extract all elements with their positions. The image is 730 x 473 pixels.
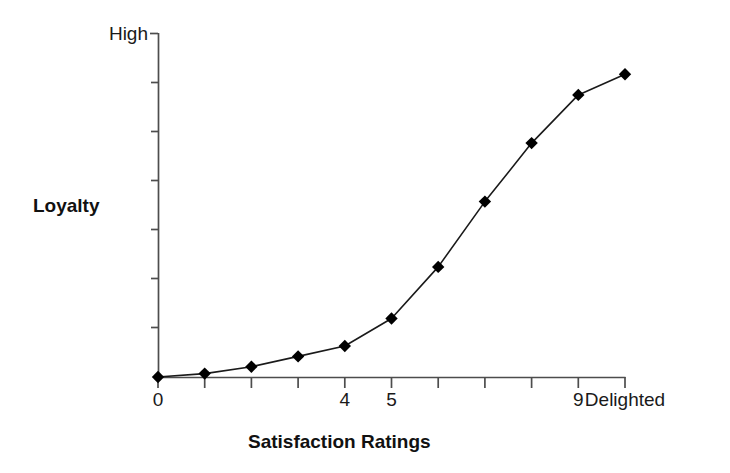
x-tick-label: 0 bbox=[153, 390, 164, 409]
data-point-marker bbox=[339, 340, 351, 352]
x-tick-label: Delighted bbox=[585, 390, 665, 409]
data-point-marker bbox=[245, 361, 257, 373]
y-axis-title: Loyalty bbox=[33, 196, 100, 215]
chart-figure: High Loyalty Satisfaction Ratings 0459De… bbox=[0, 0, 730, 473]
x-tick-label: 5 bbox=[386, 390, 397, 409]
x-tick-label: 4 bbox=[340, 390, 351, 409]
data-point-marker bbox=[292, 350, 304, 362]
data-point-marker bbox=[619, 68, 631, 80]
x-tick-label: 9 bbox=[573, 390, 584, 409]
data-point-marker bbox=[152, 371, 164, 383]
data-series-line bbox=[158, 74, 625, 377]
y-axis-ticks bbox=[150, 34, 158, 328]
x-axis-title: Satisfaction Ratings bbox=[248, 432, 431, 451]
x-axis-ticks bbox=[158, 377, 625, 388]
y-axis-top-label: High bbox=[86, 24, 148, 43]
